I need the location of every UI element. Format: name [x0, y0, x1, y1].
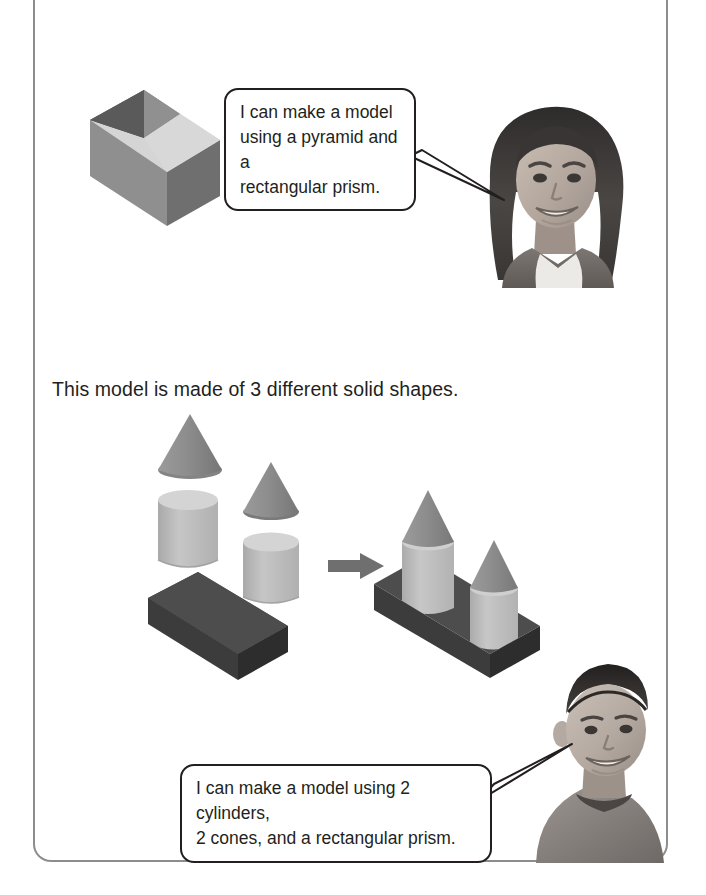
girl-eye-left [533, 173, 547, 182]
tower-right-cone [470, 540, 518, 593]
instruction-text: This model is made of 3 different solid … [52, 378, 458, 401]
cylinder-large [158, 490, 218, 567]
cone-large [158, 414, 222, 479]
tail-shape [410, 150, 504, 200]
bubble-line-2: 2 cones, and a rectangular prism. [196, 826, 476, 851]
tower-left-cylinder [402, 542, 454, 614]
tower-right [470, 540, 518, 650]
tower-left-cone [402, 490, 454, 547]
girl-eye-right [567, 173, 581, 182]
parts-prism-body [148, 572, 348, 682]
girl-speech-bubble: I can make a model using a pyramid and a… [224, 88, 416, 211]
boy-eye-right [620, 725, 633, 733]
tower-left [402, 490, 454, 614]
cone-small [243, 462, 299, 520]
top-model-diagram [52, 78, 242, 243]
tail-shape [480, 744, 572, 800]
bubble-line-1: I can make a model [240, 100, 400, 125]
boy-bubble-tail [478, 742, 588, 804]
bubble-line-3: rectangular prism. [240, 175, 400, 200]
girl-shirt [536, 254, 583, 288]
tower-right-cylinder [470, 588, 518, 650]
girl-bubble-tail [408, 148, 528, 206]
bubble-line-1: I can make a model using 2 cylinders, [196, 776, 476, 826]
worksheet-page: I can make a model using a pyramid and a… [0, 0, 706, 895]
boy-speech-bubble: I can make a model using 2 cylinders, 2 … [180, 764, 492, 863]
bubble-line-2: using a pyramid and a [240, 125, 400, 175]
boy-eye-left [585, 726, 598, 734]
